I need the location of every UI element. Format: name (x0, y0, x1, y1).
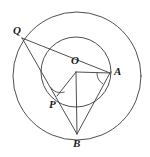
point-label-Q: Q (13, 25, 21, 36)
point-label-B: B (73, 138, 80, 149)
segment-AB (77, 73, 110, 134)
segment-OB (76, 72, 77, 134)
angle-mark-at-A (97, 73, 103, 84)
segment-QA (22, 38, 110, 73)
segment-OA (76, 72, 110, 73)
point-label-O: O (71, 55, 79, 66)
point-label-A: A (114, 66, 121, 77)
point-label-P: P (49, 99, 56, 110)
figure-canvas (0, 0, 150, 157)
geometry-figure: Q O A P B (0, 0, 150, 157)
